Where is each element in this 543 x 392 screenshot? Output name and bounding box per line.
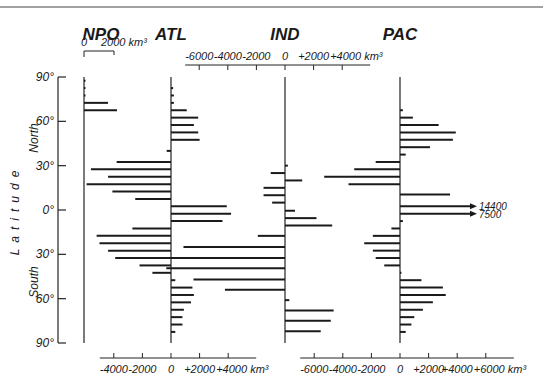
- pac-scale-label: -4000: [329, 363, 358, 375]
- latitude-tick-label: 30°: [36, 247, 54, 261]
- ind-panel-title: IND: [270, 25, 299, 44]
- pac-scale-label: +2000: [413, 363, 445, 375]
- north-label: North: [27, 123, 41, 153]
- arrow-icon: [470, 203, 477, 209]
- atl-scale-label: -2000: [128, 363, 157, 375]
- pac-scale-label: 0: [397, 363, 404, 375]
- latitude-tick-label: 0°: [43, 203, 55, 217]
- ind-scale-label: +2000: [298, 50, 330, 62]
- pac-scale-label: -2000: [357, 363, 386, 375]
- latitude-bar-chart: 90°60°30°0°30°60°90°LatitudeNorthSouthNP…: [0, 0, 543, 392]
- ind-scale-label: -2000: [242, 50, 271, 62]
- pac-annotation: 7500: [479, 209, 502, 220]
- y-axis-title: Latitude: [8, 165, 22, 256]
- atl-scale-label: +4000 km³: [216, 363, 269, 375]
- atl-scale-label: +2000: [184, 363, 216, 375]
- atl-scale-label: 0: [168, 363, 175, 375]
- ind-scale-label: -4000: [214, 50, 243, 62]
- chart-layer: 90°60°30°0°30°60°90°LatitudeNorthSouthNP…: [8, 25, 526, 375]
- ind-scale-label: +4000 km³: [330, 50, 383, 62]
- pac-scale-label: +4000: [442, 363, 474, 375]
- pac-panel-title: PAC: [383, 25, 418, 44]
- pac-scale-label: +6000 km³: [474, 363, 527, 375]
- atl-scale-label: -4000: [100, 363, 129, 375]
- latitude-tick-label: 90°: [36, 70, 54, 84]
- npo-scale-label: 2000 km³: [100, 36, 147, 48]
- arrow-icon: [470, 211, 477, 217]
- south-label: South: [27, 266, 41, 298]
- atl-panel-title: ATL: [154, 25, 187, 44]
- ind-scale-label: 0: [282, 50, 289, 62]
- latitude-tick-label: 90°: [36, 336, 54, 350]
- pac-scale-label: -6000: [300, 363, 329, 375]
- ind-scale-label: -6000: [185, 50, 214, 62]
- npo-scale-label: 0: [81, 36, 88, 48]
- latitude-tick-label: 30°: [36, 159, 54, 173]
